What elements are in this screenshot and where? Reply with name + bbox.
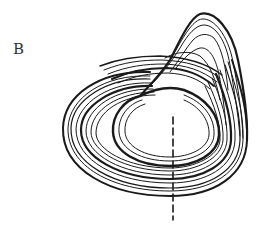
- attractor-drawing: [0, 0, 269, 225]
- inner-orbit-band: [113, 88, 219, 166]
- attractor-figure: B: [0, 0, 269, 225]
